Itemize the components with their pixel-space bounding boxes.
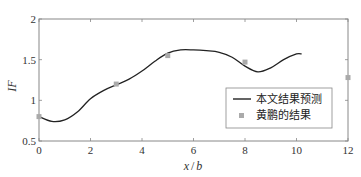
legend-label-huangpeng: 黄鹏的结果: [256, 108, 311, 122]
axis-ticks: 0246810120.511.52: [22, 13, 353, 156]
legend: 本文结果预测 黄鹏的结果: [226, 88, 332, 128]
y-tick-label: 0.5: [22, 135, 36, 147]
y-tick-label: 2: [31, 13, 37, 25]
data-point-marker: [165, 53, 170, 58]
data-point-marker: [37, 114, 42, 119]
y-axis-label: IF: [5, 80, 19, 93]
x-tick-label: 2: [88, 144, 94, 156]
x-tick-label: 6: [191, 144, 197, 156]
legend-square-icon: [239, 113, 244, 118]
y-tick-label: 1.5: [22, 54, 36, 66]
y-tick-label: 1: [31, 94, 37, 106]
x-tick-label: 12: [343, 144, 354, 156]
chart: 0246810120.511.52 IF x/b 本文结果预测 黄鹏的结果: [0, 0, 361, 177]
data-point-marker: [346, 75, 351, 80]
data-point-marker: [243, 60, 248, 65]
x-axis-label: x/b: [183, 159, 203, 173]
x-tick-label: 8: [242, 144, 248, 156]
x-tick-label: 10: [291, 144, 303, 156]
data-point-marker: [114, 82, 119, 87]
x-tick-label: 4: [139, 144, 145, 156]
legend-label-prediction: 本文结果预测: [256, 92, 322, 106]
x-tick-label: 0: [36, 144, 42, 156]
